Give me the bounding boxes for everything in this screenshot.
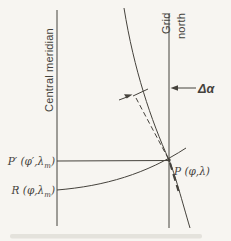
scan-artifact-band [10, 234, 202, 239]
r-label-close: ) [50, 184, 55, 196]
r-label-main: R (φ,λ [11, 184, 45, 196]
diagram-canvas: Central meridian Grid north Δα P′ (φ′,λm… [0, 0, 231, 241]
chord-dashed-line [136, 98, 169, 160]
grid-north-label-line2: north [175, 13, 187, 39]
p-prime-label: P′ (φ′,λm) [7, 155, 55, 170]
delta-alpha-arrowhead [171, 85, 179, 90]
delta-alpha-label: Δα [197, 82, 215, 96]
tick-arrow-shaft [119, 97, 127, 100]
p-prime-label-main: P′ (φ′,λ [7, 155, 45, 167]
figure-grid-convergence-diagram: Central meridian Grid north Δα P′ (φ′,λm… [0, 0, 231, 241]
tick-mark [133, 89, 148, 96]
r-label: R (φ,λm) [11, 184, 55, 199]
p-prime-label-close: ) [50, 155, 55, 167]
projected-meridian-curve [124, 8, 190, 228]
p-label: P (φ,λ) [173, 165, 210, 177]
p-prime-to-p-line [57, 161, 169, 162]
point-p-dot [167, 158, 170, 161]
grid-north-label-line1: Grid [160, 12, 172, 34]
central-meridian-label: Central meridian [43, 28, 55, 112]
